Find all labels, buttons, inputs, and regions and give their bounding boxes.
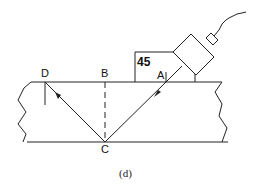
beam-a-to-c <box>105 82 166 142</box>
left-break-line <box>18 82 31 142</box>
diagram-canvas: 45 D B A C (d) <box>0 0 255 186</box>
angle-label: 45 <box>137 55 151 69</box>
beam-c-to-d <box>45 82 105 142</box>
label-d: D <box>41 67 49 79</box>
probe-cable <box>214 12 246 36</box>
label-c: C <box>101 143 109 155</box>
transducer-probe <box>166 12 246 82</box>
test-plate <box>18 82 228 142</box>
label-a: A <box>157 69 165 81</box>
figure-caption: (d) <box>119 167 132 180</box>
label-b: B <box>101 67 108 79</box>
right-break-line <box>215 82 227 142</box>
probe-beam-exit <box>166 66 182 82</box>
arrow-head-icon <box>154 90 161 97</box>
probe-connector <box>206 33 218 45</box>
arrow-head-icon <box>55 92 61 99</box>
